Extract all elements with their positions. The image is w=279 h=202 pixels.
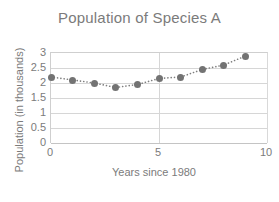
data-point bbox=[156, 75, 163, 82]
data-point bbox=[134, 81, 141, 88]
data-series-layer bbox=[51, 53, 267, 143]
y-tick-label-2: 2 bbox=[14, 77, 46, 88]
y-axis-tick-labels: 00.511.522.53 bbox=[8, 52, 46, 142]
chart-title: Population of Species A bbox=[0, 9, 279, 26]
x-axis-title: Years since 1980 bbox=[40, 166, 268, 178]
data-point bbox=[177, 74, 184, 81]
y-tick-label-3: 3 bbox=[14, 47, 46, 58]
data-point bbox=[69, 77, 76, 84]
x-tick-label-0: 0 bbox=[35, 146, 65, 158]
data-point bbox=[91, 80, 98, 87]
y-tick-label-1.5: 1.5 bbox=[14, 92, 46, 103]
chart-screenshot: Population of Species A Population (in t… bbox=[0, 0, 279, 202]
plot-area bbox=[50, 52, 268, 143]
trend-line bbox=[45, 47, 279, 157]
x-tick-label-5: 5 bbox=[143, 146, 173, 158]
x-axis-tick-labels: 0510 bbox=[50, 146, 266, 162]
data-point bbox=[199, 66, 206, 73]
data-point bbox=[48, 74, 55, 81]
x-tick-label-10: 10 bbox=[251, 146, 279, 158]
data-point bbox=[220, 62, 227, 69]
y-tick-label-0.5: 0.5 bbox=[14, 122, 46, 133]
y-tick-label-2.5: 2.5 bbox=[14, 62, 46, 73]
data-point bbox=[242, 53, 249, 60]
y-tick-label-1: 1 bbox=[14, 107, 46, 118]
